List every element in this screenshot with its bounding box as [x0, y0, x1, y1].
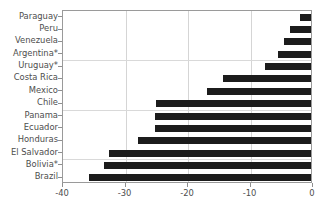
y-axis-label: Ecuador	[0, 123, 58, 132]
x-axis-labels: -40-30-20-100	[0, 188, 319, 202]
y-axis-label: Venezuela	[0, 36, 58, 45]
bar	[223, 75, 312, 82]
y-axis-label: Uruguay*	[0, 61, 58, 70]
y-axis-label: Chile	[0, 98, 58, 107]
x-axis-label: -30	[118, 188, 132, 198]
x-axis-label: -20	[180, 188, 194, 198]
x-axis-label: 0	[309, 188, 314, 198]
y-axis-label: Paraguay	[0, 12, 58, 21]
plot-area	[62, 10, 312, 183]
x-axis-tick	[187, 183, 188, 187]
x-axis-label: -10	[243, 188, 257, 198]
bar	[138, 137, 312, 144]
bar	[155, 125, 312, 132]
x-axis-ticks	[62, 183, 312, 187]
y-axis-label: Panama	[0, 111, 58, 120]
x-axis-label: -40	[55, 188, 69, 198]
bar	[290, 26, 312, 33]
x-axis-tick	[62, 183, 63, 187]
y-axis-label: Mexico	[0, 86, 58, 95]
bar	[284, 38, 312, 45]
y-axis-labels: ParaguayPeruVenezuelaArgentina*Uruguay*C…	[0, 10, 58, 183]
bar	[89, 174, 312, 181]
bar	[207, 88, 312, 95]
y-axis-label: Argentina*	[0, 49, 58, 58]
x-axis-tick	[125, 183, 126, 187]
bar	[265, 63, 312, 70]
bar	[155, 113, 312, 120]
bar-chart: ParaguayPeruVenezuelaArgentina*Uruguay*C…	[0, 0, 319, 210]
x-axis-tick	[312, 183, 313, 187]
clipped-header-remnant	[60, 0, 240, 6]
y-axis-label: Honduras	[0, 135, 58, 144]
bar	[300, 14, 312, 21]
bars-layer	[63, 11, 311, 182]
bar	[104, 162, 312, 169]
x-axis-tick	[250, 183, 251, 187]
y-axis-label: El Salvador	[0, 148, 58, 157]
y-axis-label: Costa Rica	[0, 73, 58, 82]
bar	[278, 51, 312, 58]
y-axis-label: Bolivia*	[0, 160, 58, 169]
y-axis-label: Brazil	[0, 172, 58, 181]
bar	[156, 100, 312, 107]
y-axis-label: Peru	[0, 24, 58, 33]
bar	[109, 150, 312, 157]
